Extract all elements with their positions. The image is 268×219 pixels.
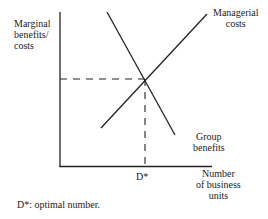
x-axis-label-line: units [196, 190, 241, 201]
managerial-costs-label: Managerial costs [213, 7, 259, 29]
y-axis-label-line: costs [14, 40, 50, 51]
footnote: D*: optimal number. [17, 199, 100, 210]
group-benefits-label-line: benefits [193, 142, 225, 153]
y-axis-label-line: Marginal [14, 18, 50, 29]
group-benefits-curve [107, 12, 175, 135]
group-benefits-label: Group benefits [193, 131, 225, 153]
y-axis-label-line: benefits/ [14, 29, 50, 40]
x-axis-label-line: of business [196, 179, 241, 190]
y-axis-label: Marginal benefits/ costs [14, 18, 50, 51]
group-benefits-label-line: Group [193, 131, 225, 142]
managerial-costs-label-line: costs [213, 18, 259, 29]
x-axis-label: Number of business units [196, 168, 241, 201]
x-axis-label-line: Number [196, 168, 241, 179]
optimal-number-tick-label: D* [136, 171, 148, 182]
managerial-costs-label-line: Managerial [213, 7, 259, 18]
